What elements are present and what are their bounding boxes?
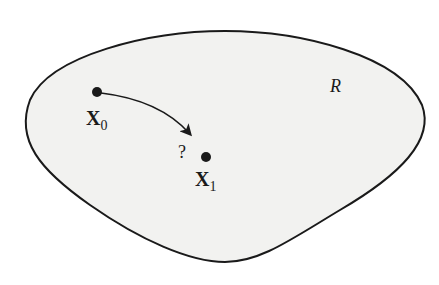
question-mark: ? bbox=[178, 142, 186, 162]
point-x0 bbox=[92, 87, 102, 97]
point-x1 bbox=[201, 152, 211, 162]
region-label: R bbox=[329, 76, 341, 96]
region-boundary bbox=[26, 31, 425, 262]
diagram-canvas: R X0 ? X1 bbox=[0, 0, 439, 285]
